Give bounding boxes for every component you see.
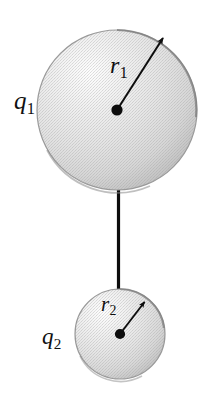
- charge-label-q1-symbol: q: [14, 87, 27, 114]
- radius-label-r1-subscript: 1: [120, 64, 128, 81]
- center-dot-top: [111, 104, 122, 115]
- radius-label-r2-subscript: 2: [109, 303, 116, 318]
- radius-label-r2: r2: [101, 294, 116, 315]
- radius-label-r1-symbol: r: [110, 52, 119, 78]
- charge-label-q2-symbol: q: [42, 324, 54, 349]
- center-dot-bottom: [115, 329, 125, 339]
- charge-label-q2-subscript: 2: [54, 335, 62, 352]
- radius-label-r2-symbol: r: [101, 292, 109, 316]
- radius-label-r1: r1: [110, 53, 127, 77]
- charge-label-q2: q2: [42, 325, 61, 348]
- figure-canvas: [0, 0, 204, 400]
- charge-label-q1-subscript: 1: [27, 99, 35, 118]
- physics-figure-two-spheres: q1 q2 r1 r2: [0, 0, 204, 400]
- charge-label-q1: q1: [14, 88, 35, 113]
